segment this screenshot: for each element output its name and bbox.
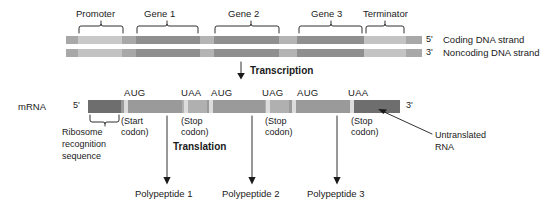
translation-arrow-1 [163,116,170,185]
noncoding-strand-prime-label: 3' [426,48,433,57]
dna2-segment-spacer-1 [122,49,136,57]
dna-label-promoter: Promoter [76,9,115,19]
dna2-segment-gene-2 [214,49,279,57]
translation-arrow-2 [248,116,255,185]
untranslated-rna-line-2: RNA [435,143,454,152]
codon-label-aug-1: AUG [124,88,146,98]
polypeptide-2-label: Polypeptide 2 [222,189,280,199]
dna2-segment-downstream [406,49,422,57]
polypeptide-1-label: Polypeptide 1 [135,189,193,199]
mrna-segment-ribosome-recognition [88,100,121,113]
bracket-gene-2 [215,21,279,33]
mrna-codon-marker-start-2 [209,100,213,113]
dna-segment-upstream [66,36,78,44]
transcription-label: Transcription [250,66,313,76]
codon-label-uag-1: UAG [262,88,284,98]
mrna-row-label: mRNA [18,102,46,112]
ribosome-sequence-line-2: recognition [62,140,106,149]
noncoding-strand-label: Noncoding DNA strand [443,48,540,58]
dna-segment-downstream [406,36,422,44]
dna2-segment-gene-3 [297,49,364,57]
bracket-gene-1 [137,21,198,33]
dna-segment-terminator [364,36,406,44]
dna-segment-gene-2 [214,36,279,44]
coding-strand-label: Coding DNA strand [443,35,524,45]
dna-label-gene-2: Gene 2 [228,9,259,19]
mrna-codon-marker-start-1 [124,100,128,113]
coding-dna-strand [66,36,422,44]
dna2-segment-upstream [66,49,78,57]
mrna-segment-untranslated-tail [353,100,400,113]
mrna-three-prime-label: 3' [406,101,413,110]
codon-label-aug-2: AUG [211,88,233,98]
mrna-codon-marker-stop-2 [266,100,270,113]
mrna-codon-marker-start-3 [292,100,296,113]
codon-label-uaa-2: UAA [348,88,368,98]
dna2-segment-spacer-3 [279,49,297,57]
dna2-segment-spacer-2 [200,49,214,57]
dna-segment-gene-3 [297,36,364,44]
stop-codon-2-annotation-line-1: (Stop [265,117,287,126]
mrna-codon-marker-stop-1 [184,100,188,113]
dna-segment-promoter [78,36,122,44]
translation-label: Translation [173,142,226,152]
mrna-segment-orf-3 [289,100,353,113]
stop-codon-1-annotation-line-2: codon) [181,128,209,137]
start-codon-annotation-line-1: (Start [121,117,143,126]
dna-label-gene-1: Gene 1 [144,9,175,19]
mrna-codon-marker-stop-3 [350,100,354,113]
dna-segment-gene-1 [136,36,200,44]
start-codon-annotation-line-2: codon) [121,128,149,137]
codon-label-aug-3: AUG [297,88,319,98]
transcription-arrow [237,62,245,80]
mrna-segment-orf-2 [207,100,265,113]
stop-codon-3-annotation-line-1: (Stop [351,117,373,126]
dna-label-gene-3: Gene 3 [311,9,342,19]
dna-label-terminator: Terminator [363,9,408,19]
bracket-terminator [366,21,404,33]
stop-codon-2-annotation-line-2: codon) [265,128,293,137]
codon-label-uaa-1: UAA [181,88,201,98]
dna-segment-spacer-3 [279,36,297,44]
mrna-bar [88,100,400,113]
translation-arrow-3 [333,116,340,185]
noncoding-dna-strand [66,49,422,57]
dna2-segment-gene-1 [136,49,200,57]
dna2-segment-promoter [78,49,122,57]
ribosome-sequence-line-3: sequence [62,152,101,161]
transcription-translation-diagram: Promoter Gene 1 Gene 2 Gene 3 Terminator… [0,0,559,210]
stop-codon-1-annotation-line-1: (Stop [181,117,203,126]
bracket-ribosome-recognition [90,115,119,126]
dna-segment-spacer-2 [200,36,214,44]
dna-segment-spacer-1 [122,36,136,44]
bracket-gene-3 [299,21,362,33]
dna2-segment-terminator [364,49,406,57]
stop-codon-3-annotation-line-2: codon) [351,128,379,137]
bracket-promoter [79,21,123,33]
ribosome-sequence-line-1: Ribosome [62,128,103,137]
mrna-segment-orf-1 [121,100,182,113]
coding-strand-prime-label: 5' [426,35,433,44]
mrna-five-prime-label: 5' [73,101,80,110]
polypeptide-3-label: Polypeptide 3 [307,189,365,199]
untranslated-rna-line-1: Untranslated [435,131,486,140]
